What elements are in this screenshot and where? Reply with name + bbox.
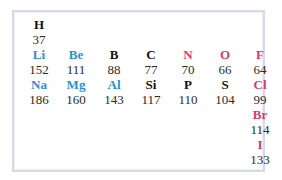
- element-radius-mg: 160: [59, 93, 93, 107]
- element-symbol-s: S: [208, 78, 242, 92]
- element-radius-b: 88: [97, 63, 131, 77]
- element-radius-n: 70: [171, 63, 205, 77]
- element-symbol-n: N: [171, 48, 205, 62]
- element-symbol-na: Na: [22, 78, 56, 92]
- element-symbol-cl: Cl: [243, 78, 277, 92]
- element-radius-f: 64: [243, 63, 277, 77]
- element-symbol-br: Br: [243, 108, 277, 122]
- element-symbol-h: H: [22, 18, 56, 32]
- element-radius-al: 143: [97, 93, 131, 107]
- element-radius-li: 152: [22, 63, 56, 77]
- element-symbol-o: O: [208, 48, 242, 62]
- element-table-frame: H37Li152Be111B88C77N70O66F64Na186Mg160Al…: [12, 10, 265, 172]
- element-radius-na: 186: [22, 93, 56, 107]
- element-radius-s: 104: [208, 93, 242, 107]
- element-symbol-i: I: [243, 138, 277, 152]
- element-radius-c: 77: [134, 63, 168, 77]
- element-radius-o: 66: [208, 63, 242, 77]
- element-radius-cl: 99: [243, 93, 277, 107]
- element-radius-br: 114: [243, 123, 277, 137]
- element-symbol-c: C: [134, 48, 168, 62]
- element-radius-h: 37: [22, 33, 56, 47]
- element-symbol-mg: Mg: [59, 78, 93, 92]
- element-symbol-li: Li: [22, 48, 56, 62]
- element-symbol-b: B: [97, 48, 131, 62]
- element-symbol-al: Al: [97, 78, 131, 92]
- element-symbol-f: F: [243, 48, 277, 62]
- element-symbol-be: Be: [59, 48, 93, 62]
- element-radius-si: 117: [134, 93, 168, 107]
- element-radius-p: 110: [171, 93, 205, 107]
- element-radius-i: 133: [243, 153, 277, 167]
- element-symbol-si: Si: [134, 78, 168, 92]
- element-symbol-p: P: [171, 78, 205, 92]
- element-radius-be: 111: [59, 63, 93, 77]
